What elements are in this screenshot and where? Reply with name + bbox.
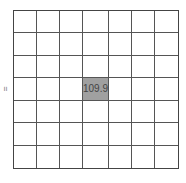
heatmap-cell <box>14 123 37 145</box>
heatmap-cell <box>60 56 83 78</box>
heatmap-cell <box>14 78 37 100</box>
heatmap-cell <box>37 123 60 145</box>
heatmap-cell <box>60 11 83 33</box>
heatmap-cell <box>14 11 37 33</box>
heatmap-cell <box>155 101 178 123</box>
heatmap-cell <box>37 11 60 33</box>
heatmap-grid: 109.9 <box>13 10 179 169</box>
heatmap-cell <box>14 33 37 55</box>
heatmap-cell <box>37 56 60 78</box>
heatmap-cell <box>109 56 132 78</box>
heatmap-cell <box>109 123 132 145</box>
heatmap-cell <box>155 56 178 78</box>
heatmap-cell <box>37 33 60 55</box>
heatmap-cell <box>132 101 155 123</box>
heatmap-cell <box>155 33 178 55</box>
heatmap-cell <box>132 146 155 168</box>
heatmap-cell <box>83 101 109 123</box>
heatmap-cell <box>37 78 60 100</box>
heatmap-cell <box>109 11 132 33</box>
heatmap-cell <box>155 123 178 145</box>
heatmap-cell <box>83 123 109 145</box>
heatmap-cell <box>132 78 155 100</box>
heatmap-cell <box>60 101 83 123</box>
heatmap-cell <box>83 146 109 168</box>
heatmap-cell <box>83 11 109 33</box>
heatmap-cell <box>109 78 132 100</box>
heatmap-cell <box>60 146 83 168</box>
heatmap-cell <box>14 101 37 123</box>
heatmap-cell-value: 109.9 <box>83 78 109 100</box>
heatmap-cell <box>14 56 37 78</box>
heatmap-cell <box>37 101 60 123</box>
heatmap-cell <box>109 101 132 123</box>
heatmap-cell <box>83 56 109 78</box>
heatmap-cell <box>155 78 178 100</box>
heatmap-cell <box>14 146 37 168</box>
heatmap-cell <box>132 11 155 33</box>
heatmap-cell <box>132 33 155 55</box>
heatmap-cell <box>132 56 155 78</box>
y-axis-label: = <box>0 84 12 94</box>
heatmap-cell <box>155 11 178 33</box>
heatmap-cell <box>109 146 132 168</box>
heatmap-cell <box>60 78 83 100</box>
heatmap-cell <box>83 33 109 55</box>
heatmap-cell <box>109 33 132 55</box>
heatmap-cell <box>155 146 178 168</box>
heatmap-cell <box>37 146 60 168</box>
heatmap-cell <box>132 123 155 145</box>
heatmap-cell <box>60 123 83 145</box>
heatmap-cell <box>60 33 83 55</box>
